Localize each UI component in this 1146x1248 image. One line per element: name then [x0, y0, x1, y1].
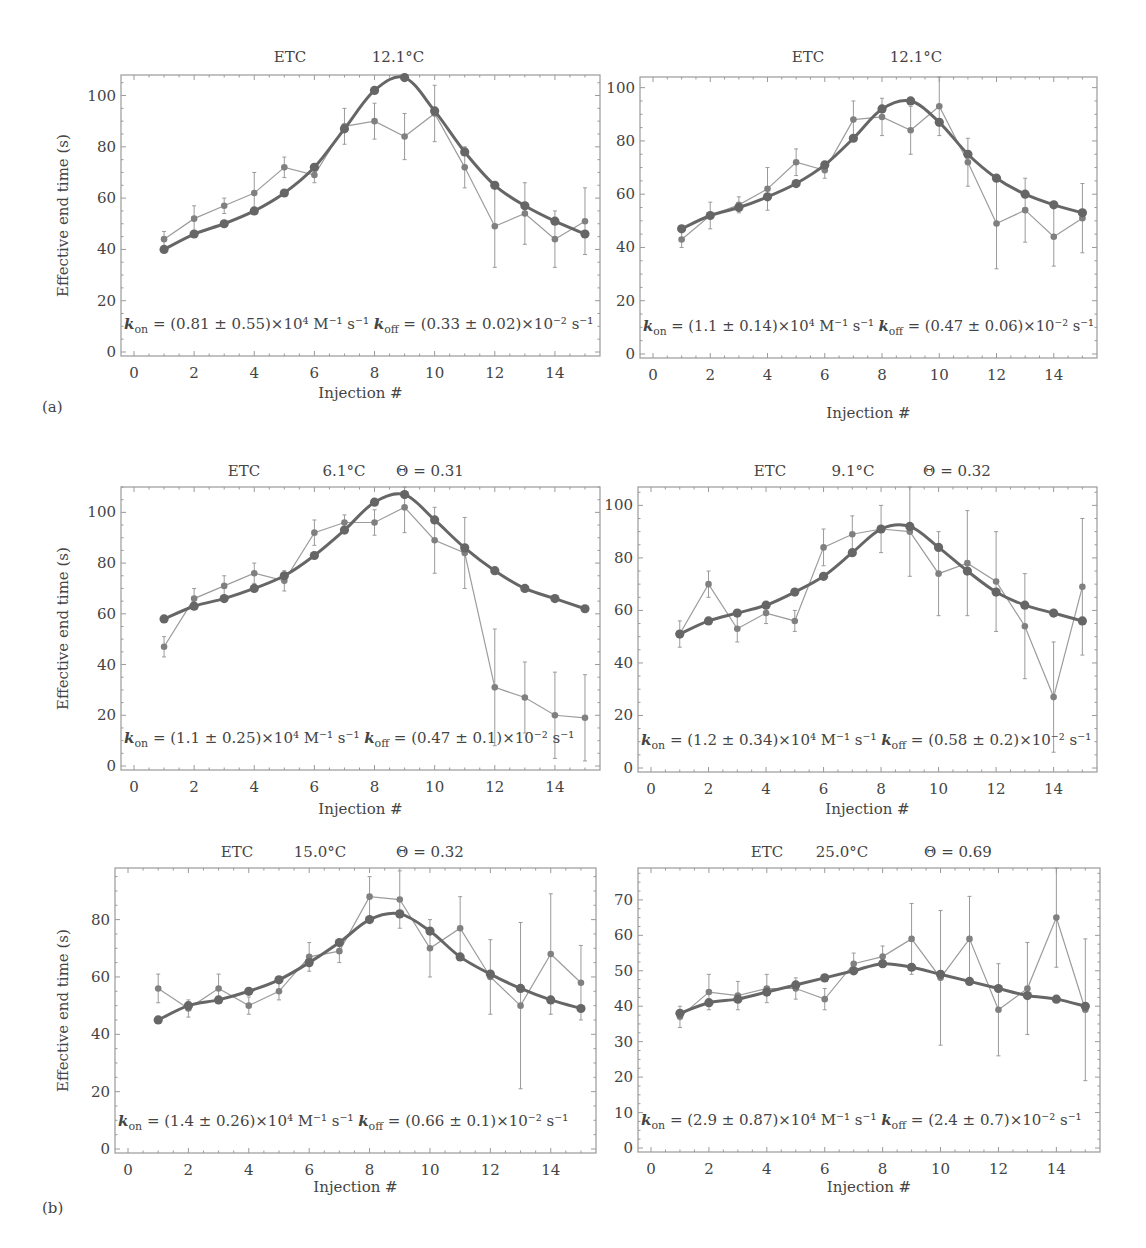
x-tick-label: 8	[370, 778, 380, 796]
measured-point	[764, 186, 771, 193]
x-tick-label: 14	[1044, 780, 1063, 798]
y-tick-label: 80	[614, 549, 633, 567]
chart-title-part: ETC	[228, 462, 260, 480]
x-tick-label: 8	[877, 366, 887, 384]
measured-point	[1022, 207, 1029, 214]
y-tick-label: 40	[97, 240, 116, 258]
fit-point	[456, 952, 465, 961]
y-tick-label: 0	[100, 1140, 110, 1158]
measured-point	[281, 164, 288, 171]
measured-point	[793, 159, 800, 166]
plot-frame	[121, 75, 600, 356]
x-tick-label: 0	[129, 778, 139, 796]
measured-point	[705, 581, 712, 588]
fit-point	[395, 909, 404, 918]
measured-point	[1050, 694, 1057, 701]
measured-point	[461, 164, 468, 171]
fit-point	[934, 543, 943, 552]
measured-point	[763, 610, 770, 617]
fit-point	[963, 150, 972, 159]
fit-point	[1052, 995, 1061, 1004]
x-axis-label: Injection #	[825, 800, 909, 818]
y-tick-label: 70	[614, 891, 633, 909]
chart-title-part: Θ = 0.31	[396, 462, 464, 480]
x-axis-label: Injection #	[826, 404, 910, 422]
x-tick-label: 10	[420, 1161, 439, 1179]
y-tick-label: 0	[625, 345, 635, 363]
x-tick-label: 14	[545, 364, 564, 382]
measured-point	[964, 560, 971, 567]
fit-curve	[158, 913, 581, 1020]
fit-point	[250, 584, 259, 593]
fit-point	[280, 571, 289, 580]
x-tick-label: 4	[249, 778, 259, 796]
x-tick-label: 14	[541, 1161, 560, 1179]
measured-point	[791, 618, 798, 625]
measured-point	[366, 893, 373, 900]
y-tick-label: 60	[97, 605, 116, 623]
x-tick-label: 6	[310, 778, 320, 796]
fit-point	[963, 566, 972, 575]
measured-point	[706, 989, 713, 996]
measured-point	[879, 953, 886, 960]
fit-point	[819, 572, 828, 581]
y-tick-label: 20	[616, 292, 635, 310]
measured-point	[191, 595, 198, 602]
y-axis-label: Effective end time (s)	[54, 134, 72, 297]
measured-point	[251, 570, 258, 577]
measured-point	[1053, 914, 1060, 921]
fit-point	[214, 995, 223, 1004]
x-tick-label: 12	[989, 1160, 1008, 1178]
fit-point	[550, 217, 559, 226]
fit-point	[486, 969, 495, 978]
fit-point	[820, 973, 829, 982]
fit-point	[546, 995, 555, 1004]
fit-point	[994, 984, 1003, 993]
fit-point	[1078, 208, 1087, 217]
rate-constants-annotation: kon = (0.81 ± 0.55)×10⁴ M⁻¹ s⁻¹ koff = (…	[124, 315, 593, 336]
measured-point	[457, 925, 464, 932]
x-tick-label: 8	[365, 1161, 375, 1179]
measured-point	[517, 1002, 524, 1009]
measured-point	[276, 988, 283, 995]
y-tick-label: 100	[87, 503, 116, 521]
fit-point	[520, 584, 529, 593]
fit-point	[159, 245, 168, 254]
panel-label-b: (b)	[42, 1199, 63, 1217]
chart-title-part: ETC	[274, 48, 306, 66]
measured-point	[908, 936, 915, 943]
fit-point	[820, 160, 829, 169]
measured-point	[1022, 623, 1029, 630]
chart-title-part: Θ = 0.32	[396, 843, 464, 861]
y-tick-label: 50	[614, 962, 633, 980]
x-tick-label: 8	[876, 780, 886, 798]
fit-point	[761, 601, 770, 610]
measured-point	[396, 896, 403, 903]
measured-point	[582, 715, 589, 722]
y-tick-label: 60	[91, 968, 110, 986]
fit-point	[907, 963, 916, 972]
x-axis-label: Injection #	[313, 1178, 397, 1196]
measured-point	[401, 504, 408, 511]
measured-point	[1050, 234, 1057, 241]
measured-point	[245, 1002, 252, 1009]
fit-point	[849, 966, 858, 975]
measured-point	[582, 218, 589, 225]
fit-point	[220, 594, 229, 603]
x-tick-label: 0	[123, 1161, 133, 1179]
fit-point	[1021, 190, 1030, 199]
fit-point	[790, 587, 799, 596]
y-tick-label: 20	[97, 706, 116, 724]
fit-point	[190, 602, 199, 611]
fit-point	[310, 551, 319, 560]
y-tick-label: 0	[106, 757, 116, 775]
fit-point	[520, 201, 529, 210]
chart-b-mid-left: 02468101214020406080100ETC6.1°CΘ = 0.31I…	[54, 462, 600, 818]
x-tick-label: 10	[930, 366, 949, 384]
y-tick-label: 80	[616, 132, 635, 150]
fit-point	[734, 203, 743, 212]
rate-constants-annotation: kon = (2.9 ± 0.87)×10⁴ M⁻¹ s⁻¹ koff = (2…	[641, 1111, 1082, 1132]
fit-point	[706, 211, 715, 220]
fit-point	[310, 163, 319, 172]
measured-point	[155, 985, 162, 992]
